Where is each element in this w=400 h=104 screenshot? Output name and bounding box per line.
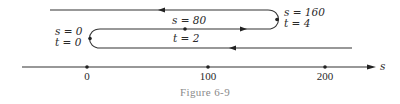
motion-diagram: s = 0 t = 0 s = 80 t = 2 s = 160 t = 4 s… xyxy=(0,0,400,104)
axis-tick-100 xyxy=(206,65,210,69)
marker-mid xyxy=(183,27,187,31)
figure-caption: Figure 6-9 xyxy=(180,86,230,98)
axis-arrow-icon xyxy=(367,65,376,70)
marker-start xyxy=(88,37,92,41)
arrow-left-icon xyxy=(229,46,236,51)
axis-tick-200 xyxy=(323,65,327,69)
arrow-right-icon xyxy=(240,27,247,32)
label-turn-t: t = 4 xyxy=(284,17,310,29)
tick-label-100: 100 xyxy=(200,70,217,82)
label-start-t: t = 0 xyxy=(55,36,82,48)
arrow-left-icon xyxy=(158,8,165,13)
axis-label: s xyxy=(380,60,386,72)
label-mid-s: s = 80 xyxy=(172,14,207,26)
axis-tick-0 xyxy=(85,65,89,69)
label-mid-t: t = 2 xyxy=(173,32,200,44)
tick-label-200: 200 xyxy=(317,70,334,82)
marker-turn xyxy=(275,18,279,22)
tick-label-0: 0 xyxy=(84,70,90,82)
